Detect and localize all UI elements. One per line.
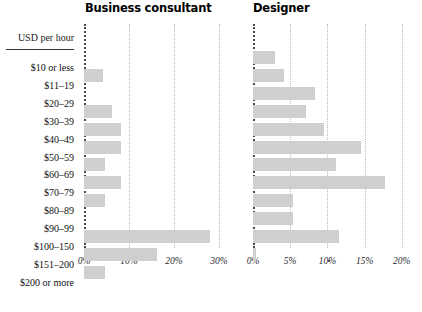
stray-mark — [328, 260, 330, 262]
bar — [253, 87, 315, 100]
category-label: $151–200 — [34, 260, 74, 270]
bar — [253, 158, 336, 171]
bar — [253, 248, 256, 261]
category-label: $30–39 — [44, 117, 74, 127]
bar — [84, 105, 112, 118]
bar — [253, 69, 284, 82]
category-label: $60–69 — [44, 170, 74, 180]
x-tick-label: 15% — [356, 256, 373, 266]
bar — [84, 123, 121, 136]
bar — [253, 194, 293, 207]
panel-designer: 0%5%10%15%20% — [253, 24, 419, 286]
bar — [84, 194, 105, 207]
x-tick-label: 20% — [165, 256, 182, 266]
gridline — [402, 24, 403, 248]
gridline — [219, 24, 220, 248]
category-label: $200 or more — [20, 278, 74, 288]
category-label: $80–89 — [44, 206, 74, 216]
bar — [253, 212, 293, 225]
bar — [253, 105, 306, 118]
category-label: $90–99 — [44, 224, 74, 234]
plot-area-designer: 0%5%10%15%20% — [253, 24, 419, 279]
panel-title-business-consultant: Business consultant — [85, 1, 211, 15]
category-label: $11–19 — [44, 81, 74, 91]
category-label: $100–150 — [34, 242, 74, 252]
bar — [253, 51, 275, 64]
category-label: $50–59 — [44, 153, 74, 163]
panel-title-designer: Designer — [253, 1, 309, 15]
x-tick-label: 30% — [210, 256, 227, 266]
category-label: $40–49 — [44, 135, 74, 145]
x-tick-label: 5% — [284, 256, 297, 266]
bar — [253, 123, 324, 136]
caption-underline — [6, 49, 74, 50]
axis-caption-usd-per-hour: USD per hour — [0, 32, 74, 43]
category-axis: USD per hour $10 or less$11–19$20–29$30–… — [0, 30, 79, 285]
bar — [84, 230, 210, 243]
bar — [253, 176, 385, 189]
bar — [253, 230, 339, 243]
chart-container: Business consultant Designer USD per hou… — [0, 0, 422, 312]
bar — [84, 248, 157, 261]
plot-area-business-consultant: 0%10%20%30% — [84, 24, 234, 279]
panel-business-consultant: 0%10%20%30% — [84, 24, 234, 286]
bar — [84, 176, 121, 189]
category-label: $10 or less — [31, 63, 74, 73]
gridline — [174, 24, 175, 248]
bar — [84, 266, 105, 279]
gridline — [365, 24, 366, 248]
bar — [253, 141, 361, 154]
x-tick-label: 20% — [393, 256, 410, 266]
category-label: $70–79 — [44, 188, 74, 198]
bar — [84, 69, 103, 82]
gridline — [129, 24, 130, 248]
bar — [84, 141, 121, 154]
bar — [84, 158, 105, 171]
category-label: $20–29 — [44, 99, 74, 109]
axis-zero-line — [84, 24, 86, 248]
gridline — [327, 24, 328, 248]
